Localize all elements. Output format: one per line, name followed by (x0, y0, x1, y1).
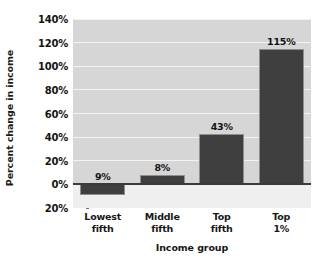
x-axis-tick-label-line: 1% (252, 223, 312, 235)
y-axis-title: Percent change in income (3, 8, 17, 228)
plot-area: 9%8%43%115% (73, 19, 311, 208)
zero-baseline (73, 183, 311, 185)
bar-value-label: 115% (247, 36, 311, 47)
y-axis-tick-label: 60% (16, 108, 68, 119)
bar-value-label: 9% (73, 171, 137, 182)
bar (199, 134, 244, 185)
bar-chart-figure: Percent change in income 140%120%100%80%… (0, 0, 331, 260)
bar-value-label: 43% (187, 121, 256, 132)
y-axis-tick-label: 140% (16, 14, 68, 25)
bar (80, 184, 125, 195)
gridline (73, 19, 311, 20)
x-axis-tick-label: Lowestfifth (73, 211, 133, 235)
x-axis-tick-label-line: Lowest (73, 211, 133, 223)
y-axis-tick-labels: 140%120%100%80%60%40%20%0%20% (16, 15, 68, 215)
y-axis-tick-label: 100% (16, 61, 68, 72)
x-axis-tick-label-line: Middle (133, 211, 193, 223)
y-axis-tick-mark (86, 208, 89, 209)
x-axis-tick-label-line: fifth (192, 223, 252, 235)
x-axis-tick-label: Top1% (252, 211, 312, 235)
bar-value-label: 8% (128, 162, 197, 173)
y-axis-tick-label: 120% (16, 37, 68, 48)
y-axis-tick-label: 0% (16, 179, 68, 190)
x-axis-tick-label-line: Top (252, 211, 312, 223)
x-axis-tick-label-line: Top (192, 211, 252, 223)
y-axis-tick-label: 20% (16, 155, 68, 166)
x-axis-tick-labels: LowestfifthMiddlefifthTopfifthTop1% (73, 211, 311, 241)
y-axis-tick-label: 80% (16, 84, 68, 95)
x-axis-tick-label: Middlefifth (133, 211, 193, 235)
x-axis-tick-label-line: fifth (73, 223, 133, 235)
x-axis-title: Income group (73, 242, 311, 253)
bar (259, 49, 304, 185)
y-axis-tick-label: 20% (16, 203, 68, 214)
y-axis-tick-label: 40% (16, 132, 68, 143)
x-axis-tick-label: Topfifth (192, 211, 252, 235)
x-axis-tick-label-line: fifth (133, 223, 193, 235)
